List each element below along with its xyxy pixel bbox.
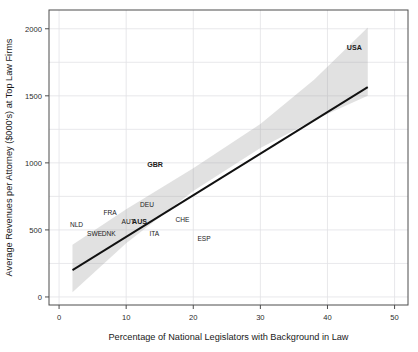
y-tick-label: 0 <box>38 293 42 302</box>
data-point-label-fra: FRA <box>103 209 117 216</box>
data-point-label-deu: DEU <box>140 201 154 208</box>
data-point-label-che: CHE <box>176 216 191 223</box>
x-tick-label: 50 <box>390 313 398 322</box>
data-point-label-gbr: GBR <box>147 161 163 169</box>
y-tick-label: 500 <box>29 226 42 235</box>
data-point-label-esp: ESP <box>197 235 211 242</box>
y-tick-label: 1000 <box>25 159 42 168</box>
x-axis-title: Percentage of National Legislators with … <box>108 332 348 342</box>
y-tick-label: 2000 <box>25 25 42 34</box>
x-tick-label: 40 <box>323 313 331 322</box>
data-point-label-nld: NLD <box>70 221 83 228</box>
scatter-plot-figure: NLDSWEDNKFRAAUTAUSDEUITACHEESPGBRUSA0102… <box>0 0 418 352</box>
y-axis-title: Average Revenues per Attorney ($000's) a… <box>4 38 14 276</box>
data-point-label-aus: AUS <box>132 218 147 226</box>
y-tick-label: 1500 <box>25 92 42 101</box>
x-tick-label: 30 <box>256 313 264 322</box>
data-point-label-ita: ITA <box>149 230 159 237</box>
data-point-label-swe: SWE <box>87 230 103 237</box>
x-tick-label: 0 <box>57 313 61 322</box>
data-point-label-dnk: DNK <box>102 230 117 237</box>
x-tick-label: 20 <box>189 313 197 322</box>
chart-canvas: NLDSWEDNKFRAAUTAUSDEUITACHEESPGBRUSA0102… <box>0 0 418 352</box>
data-point-label-usa: USA <box>347 44 362 52</box>
x-tick-label: 10 <box>122 313 130 322</box>
